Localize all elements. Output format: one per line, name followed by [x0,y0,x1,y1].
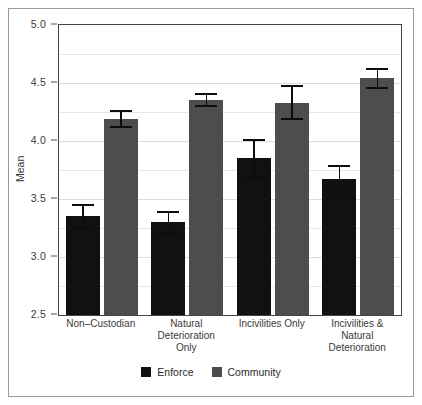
bar-community-3 [275,103,309,315]
x-axis: Non–CustodianNatural Deterioration OnlyI… [58,318,402,362]
error-bar-cap-top [366,68,388,70]
bar-community-2 [189,100,223,315]
bar-community-1 [104,119,138,315]
chart-legend: EnforceCommunity [0,366,422,378]
x-tick-label: Non–Custodian [58,318,144,330]
y-tick-mark [51,24,57,25]
bar-community-4 [360,78,394,315]
bar-chart-figure: Mean 2.53.03.54.04.55.0 Non–CustodianNat… [0,0,422,405]
y-tick-label: 2.5 [31,308,46,320]
error-bar-cap-top [157,211,179,213]
legend-swatch-enforce [141,367,151,377]
error-bar-cap-top [328,165,350,167]
error-bar-cap-top [72,204,94,206]
x-tick-label: Natural Deterioration Only [144,318,230,354]
y-tick-mark [51,314,57,315]
x-tick-label: Incivilities & Natural Deterioration [315,318,401,354]
gridline-minor [59,112,401,113]
legend-label: Enforce [157,366,193,378]
legend-item-community[interactable]: Community [212,366,281,378]
y-tick-label: 5.0 [31,18,46,30]
bar-enforce-1 [66,216,100,315]
y-axis-title: Mean [14,156,26,182]
legend-item-enforce[interactable]: Enforce [141,366,193,378]
y-tick-mark [51,140,57,141]
y-tick-mark [51,198,57,199]
bar-enforce-2 [151,222,185,315]
gridline-minor [59,54,401,55]
y-tick-label: 4.0 [31,134,46,146]
legend-swatch-community [212,367,222,377]
error-bar-cap-top [281,85,303,87]
bar-enforce-4 [322,179,356,315]
legend-label: Community [228,366,281,378]
y-tick-label: 3.0 [31,250,46,262]
gridline-major [59,83,401,84]
error-bar-cap-top [195,93,217,95]
y-tick-mark [51,82,57,83]
y-tick-label: 3.5 [31,192,46,204]
y-tick-mark [51,256,57,257]
x-tick-label: Incivilities Only [229,318,315,330]
plot-area [58,24,402,316]
bar-enforce-3 [237,158,271,315]
y-tick-label: 4.5 [31,76,46,88]
y-axis: Mean 2.53.03.54.04.55.0 [0,24,58,316]
